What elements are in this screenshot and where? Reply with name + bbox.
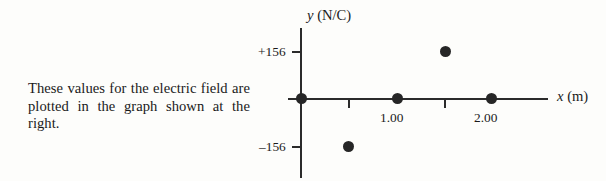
x-tick-label-two: 2.00	[474, 110, 497, 126]
data-point-two	[486, 93, 497, 104]
y-tick-label-positive: +156	[258, 44, 286, 60]
y-axis-tick-positive	[292, 51, 301, 53]
data-point-negative	[343, 141, 354, 152]
x-axis-tick-one-half	[444, 100, 446, 108]
x-axis-label: x (m)	[557, 88, 588, 105]
figure-panel: These values for the electric field are …	[0, 0, 606, 181]
x-axis-tick-half	[348, 100, 350, 108]
x-tick-label-one: 1.00	[380, 110, 403, 126]
x-axis-line	[288, 98, 548, 100]
scatter-chart: y (N/C) x (m) +156 –156 1.00 2.00	[0, 0, 606, 181]
data-point-positive	[440, 46, 451, 57]
x-axis-unit: (m)	[567, 88, 588, 104]
data-point-origin	[296, 93, 307, 104]
y-axis-tick-negative	[292, 146, 301, 148]
y-tick-label-negative: –156	[259, 139, 286, 155]
data-point-one	[392, 93, 403, 104]
y-axis-unit: (N/C)	[317, 7, 351, 23]
y-axis-label: y (N/C)	[307, 7, 351, 24]
